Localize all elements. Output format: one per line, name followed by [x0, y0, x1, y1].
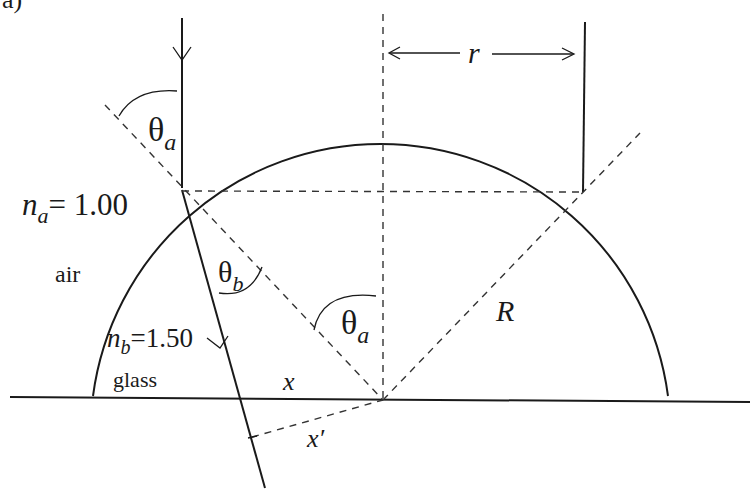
x-prime-label: x′	[306, 424, 325, 453]
n-b-label: nb=1.50	[107, 323, 193, 358]
theta-a-center-label: θa	[341, 304, 369, 348]
normal-line-left	[105, 105, 383, 400]
air-label: air	[55, 261, 80, 287]
panel-label: a)	[2, 0, 22, 14]
R-label: R	[495, 294, 514, 327]
incident-ray-right	[583, 22, 585, 192]
theta-b-label: θb	[218, 255, 243, 296]
refraction-diagram: a) θa θb θa na= 1.00 air nb=1.50 glass x…	[0, 0, 750, 494]
theta-a-top-label: θa	[148, 111, 176, 155]
radius-line-right	[383, 133, 640, 400]
hemisphere-outline	[93, 144, 668, 396]
x-label: x	[282, 367, 295, 396]
horizontal-chord-dashed	[182, 191, 583, 192]
refracted-ray	[182, 190, 265, 488]
glass-label: glass	[113, 367, 157, 392]
r-label: r	[468, 36, 480, 69]
n-a-label: na= 1.00	[22, 187, 128, 228]
